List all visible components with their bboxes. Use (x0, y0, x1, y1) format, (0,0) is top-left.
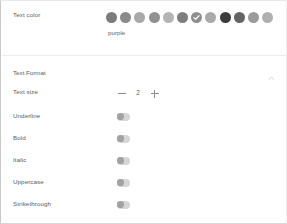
text-format-header[interactable]: Text Format (1, 69, 286, 78)
text-size-value: 2 (135, 90, 141, 96)
toggle-switch-bold[interactable] (117, 135, 130, 143)
toggle-label: Bold (13, 135, 105, 141)
swatch-green[interactable] (177, 12, 188, 23)
text-size-label: Text size (13, 89, 105, 95)
check-icon (191, 12, 202, 23)
toggle-label: Uppercase (13, 179, 105, 185)
toggle-control (105, 157, 278, 165)
chevron-up-icon[interactable] (267, 69, 276, 78)
toggle-control (105, 179, 278, 187)
color-swatch-list (106, 12, 273, 23)
toggle-control (105, 201, 278, 209)
swatch-red[interactable] (106, 12, 117, 23)
toggle-control (105, 135, 278, 143)
swatch-gray[interactable] (248, 12, 259, 23)
text-settings-panel: Text color purple Text Format Text size … (0, 0, 287, 224)
toggle-switch-underline[interactable] (117, 113, 130, 121)
toggle-label: Underline (13, 113, 105, 119)
swatch-dark-gray[interactable] (234, 12, 245, 23)
swatch-light-green[interactable] (163, 12, 174, 23)
toggle-control (105, 113, 278, 121)
color-swatch-wrap: purple (105, 12, 273, 36)
toggle-knob (117, 113, 124, 120)
text-size-increment-button[interactable] (150, 89, 159, 98)
toggle-knob (117, 179, 124, 186)
swatch-orange[interactable] (120, 12, 131, 23)
toggle-row: Underline (1, 113, 286, 121)
toggle-knob (117, 201, 124, 208)
swatch-pale-gray[interactable] (262, 12, 273, 23)
toggle-switch-strikethrough[interactable] (117, 201, 130, 209)
toggle-row: Strikethrough (1, 201, 286, 209)
swatch-light-gray[interactable] (205, 12, 216, 23)
text-color-label: Text color (13, 12, 105, 18)
swatch-purple[interactable] (191, 12, 202, 23)
swatch-black[interactable] (220, 12, 231, 23)
toggle-label: Italic (13, 157, 105, 163)
text-size-row: Text size 2 (1, 89, 286, 98)
toggle-switch-italic[interactable] (117, 157, 130, 165)
toggle-row: Italic (1, 157, 286, 165)
section-divider (2, 55, 286, 56)
toggle-label: Strikethrough (13, 201, 105, 207)
text-size-control: 2 (105, 89, 278, 98)
text-size-decrement-button[interactable] (117, 89, 126, 98)
text-size-stepper: 2 (117, 89, 159, 98)
text-color-control: purple (105, 12, 278, 36)
toggle-row: Bold (1, 135, 286, 143)
toggle-row: Uppercase (1, 179, 286, 187)
text-color-row: Text color purple (1, 1, 286, 36)
toggle-knob (117, 135, 124, 142)
toggle-knob (117, 157, 124, 164)
text-format-title: Text Format (13, 70, 267, 76)
selected-color-name: purple (108, 30, 273, 36)
toggle-switch-uppercase[interactable] (117, 179, 130, 187)
swatch-olive[interactable] (149, 12, 160, 23)
swatch-yellow[interactable] (134, 12, 145, 23)
